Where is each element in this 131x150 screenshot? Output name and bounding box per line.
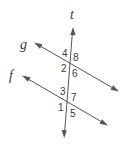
parallel-lines-diagram: t g f 4 8 2 6 3 7 1 5 [0, 0, 131, 150]
arrowhead-right-icon [100, 119, 109, 125]
angle-2: 2 [61, 63, 67, 74]
arrowhead-up-icon [70, 27, 75, 35]
arrowhead-right-icon [111, 85, 120, 91]
angle-3: 3 [60, 86, 66, 97]
line-f [22, 76, 108, 126]
arrowhead-down-icon [62, 130, 67, 138]
angle-4: 4 [62, 48, 68, 59]
line-g [34, 43, 119, 92]
angle-1: 1 [58, 102, 64, 113]
label-g: g [20, 37, 27, 52]
arrowhead-left-icon [22, 76, 31, 82]
angle-7: 7 [71, 92, 77, 103]
angle-5: 5 [70, 108, 76, 119]
line-t [62, 27, 76, 138]
arrowhead-left-icon [34, 43, 43, 49]
label-f: f [9, 68, 15, 83]
angle-8: 8 [73, 52, 79, 63]
label-t: t [70, 7, 75, 22]
angle-6: 6 [72, 68, 78, 79]
